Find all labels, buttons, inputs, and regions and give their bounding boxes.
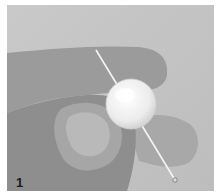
pin-head (173, 178, 177, 182)
bead-highlight (115, 88, 135, 102)
bead (106, 79, 156, 129)
photo-illustration (7, 5, 214, 191)
photo (7, 5, 214, 191)
step-number-label: 1 (16, 176, 23, 189)
